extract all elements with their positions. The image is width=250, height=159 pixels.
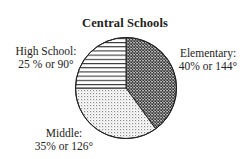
label-middle-value: 35% or 126° — [28, 140, 100, 153]
label-middle: Middle: 35% or 126° — [28, 127, 100, 153]
label-middle-name: Middle: — [28, 127, 100, 140]
label-high-school: High School: 25 % or 90° — [14, 45, 78, 71]
label-high-school-value: 25 % or 90° — [14, 58, 78, 71]
label-high-school-name: High School: — [14, 45, 78, 58]
label-elementary: Elementary: 40% or 144° — [172, 47, 244, 73]
label-elementary-name: Elementary: — [172, 47, 244, 60]
slice-high-school — [76, 38, 127, 89]
label-elementary-value: 40% or 144° — [172, 60, 244, 73]
